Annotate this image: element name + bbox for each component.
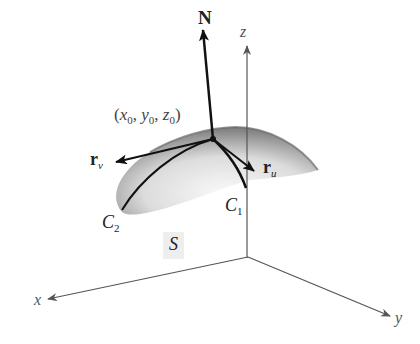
point-marker (210, 136, 216, 142)
r-u-base: r (263, 157, 271, 177)
x-axis (48, 257, 248, 299)
label-r-v: rv (90, 150, 103, 168)
label-point: (x0, y0, z0) (114, 106, 181, 123)
coord-z-sub: 0 (169, 114, 175, 126)
label-c1: C1 (225, 196, 243, 214)
coord-x-sub: 0 (127, 114, 133, 126)
r-v-sub: v (98, 159, 103, 171)
diagram-canvas (0, 0, 420, 344)
label-axis-z: z (240, 24, 246, 40)
label-r-u: ru (263, 158, 277, 176)
r-u-sub: u (271, 167, 277, 179)
sep1: , (133, 105, 142, 124)
coord-y-sub: 0 (149, 114, 155, 126)
label-axis-x: x (34, 292, 41, 308)
surface-s (116, 127, 318, 215)
surface-normal-diagram: N z (x0, y0, z0) rv ru C1 C2 S x y (0, 0, 420, 344)
c2-sub: 2 (114, 222, 120, 234)
c1-sub: 1 (237, 205, 243, 217)
r-v-base: r (90, 149, 98, 169)
label-surface: S (163, 232, 184, 259)
label-c2: C2 (102, 213, 120, 231)
coord-y: y (141, 105, 149, 124)
c2-base: C (102, 212, 114, 232)
label-axis-y: y (395, 310, 402, 326)
y-axis (248, 257, 390, 316)
c1-base: C (225, 195, 237, 215)
label-normal: N (198, 8, 212, 27)
sep2: , (154, 105, 163, 124)
paren-close: ) (175, 105, 181, 124)
normal-vector-n (203, 30, 213, 139)
